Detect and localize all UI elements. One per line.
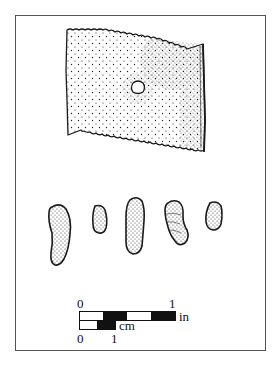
inch-scale-end-label: 1 (169, 297, 176, 310)
bead-5 (206, 202, 222, 230)
cm-segment-dark (97, 321, 116, 330)
bead-4 (165, 201, 188, 245)
cm-unit-label: cm (119, 319, 135, 332)
inch-scale-start-label: 0 (77, 297, 84, 310)
cm-scale-start-label: 0 (77, 332, 84, 345)
inch-unit-label: in (179, 310, 189, 323)
bead-1 (49, 205, 71, 265)
bead-2 (93, 206, 107, 234)
bead-3 (126, 198, 144, 254)
artifact-drawing (0, 0, 276, 365)
inch-segment-dark-2 (151, 312, 176, 321)
cm-scale-end-label: 1 (111, 332, 118, 345)
perforation-hole (132, 81, 145, 94)
